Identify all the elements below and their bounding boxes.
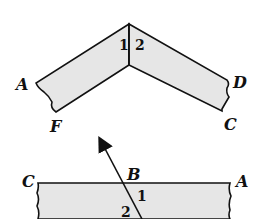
label-B-bottom: B: [126, 165, 141, 184]
label-F-top: F: [49, 117, 63, 136]
label-C-top: C: [224, 115, 237, 134]
strip-bottom: C B A 1 2: [22, 143, 248, 219]
flat-strip: [37, 183, 231, 219]
label-D-top: D: [232, 73, 247, 92]
label-C-bottom: C: [22, 172, 35, 191]
angle-1-bottom: 1: [137, 188, 147, 204]
angle-1-top: 1: [119, 37, 129, 53]
angle-2-bottom: 2: [121, 204, 131, 219]
folded-strip-top: A D F C 1 2: [14, 24, 247, 136]
label-A-top: A: [14, 75, 28, 94]
strip-left-panel: [36, 24, 129, 112]
label-A-bottom: A: [234, 172, 248, 191]
diagram-canvas: A D F C 1 2 C B A 1 2: [0, 0, 267, 219]
angle-2-top: 2: [135, 37, 145, 53]
